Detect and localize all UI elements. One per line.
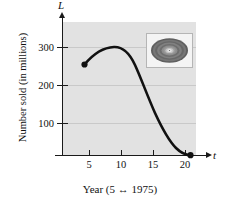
x-axis-title: Year (5 ↔ 1975) — [40, 183, 200, 195]
x-tick-10 — [121, 150, 122, 156]
y-axis-title: Number sold (in millions) — [17, 13, 28, 163]
y-tick-200 — [57, 85, 68, 86]
x-tick-label-10: 10 — [108, 159, 134, 170]
x-tick-label-20: 20 — [172, 159, 198, 170]
figure-container: L t 300 200 100 5 10 15 20 Number sold (… — [0, 0, 226, 211]
y-axis-variable-label: L — [58, 0, 64, 11]
x-axis-arrow-icon — [206, 152, 212, 158]
gridline-200 — [63, 85, 196, 86]
x-tick-5 — [89, 150, 90, 156]
gridline-100 — [63, 123, 196, 124]
x-tick-15 — [153, 150, 154, 156]
x-tick-label-15: 15 — [140, 159, 166, 170]
y-axis-line — [62, 16, 63, 156]
vinyl-record-icon — [150, 37, 189, 64]
y-tick-100 — [57, 123, 68, 124]
x-tick-20 — [185, 150, 186, 156]
y-axis-arrow-icon — [59, 12, 65, 18]
vinyl-record-inset — [146, 33, 193, 68]
y-tick-300 — [57, 47, 68, 48]
x-tick-label-5: 5 — [76, 159, 102, 170]
x-axis-variable-label: t — [213, 149, 216, 161]
x-axis-line — [55, 155, 210, 156]
